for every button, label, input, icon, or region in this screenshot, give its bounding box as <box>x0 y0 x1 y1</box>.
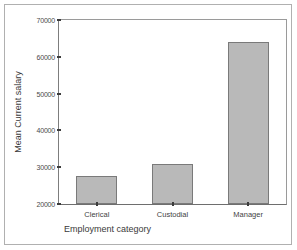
y-axis-tick-label: 60000 <box>37 53 55 60</box>
bar <box>228 42 269 204</box>
bar-chart-figure: Mean Current salary 20000300004000050000… <box>0 0 297 250</box>
y-axis-tick-mark <box>57 19 61 21</box>
x-axis-tick-label: Custodial <box>157 210 188 219</box>
y-axis-tick-mark <box>57 203 61 205</box>
x-axis-tick-label: Manager <box>233 210 263 219</box>
y-axis-tick-label: 30000 <box>37 164 55 171</box>
x-axis-tick-mark <box>172 202 174 206</box>
y-axis-title-label: Mean Current salary <box>13 71 23 153</box>
y-axis-tick-mark <box>57 166 61 168</box>
y-axis-tick-mark <box>57 56 61 58</box>
x-axis-title: Employment category <box>58 224 287 234</box>
y-axis-tick-label: 70000 <box>37 17 55 24</box>
y-axis-tick-label: 50000 <box>37 90 55 97</box>
y-axis-tick-label: 20000 <box>37 201 55 208</box>
x-axis-tick-mark <box>96 202 98 206</box>
x-axis-tick-mark <box>247 202 249 206</box>
x-axis-title-label: Employment category <box>64 224 151 234</box>
bar <box>152 164 193 204</box>
plot-area: 200003000040000500006000070000ClericalCu… <box>58 19 287 205</box>
y-axis-tick-mark <box>57 93 61 95</box>
y-axis-title: Mean Current salary <box>11 19 25 205</box>
y-axis-tick-label: 40000 <box>37 127 55 134</box>
bar <box>76 176 117 204</box>
y-axis-tick-mark <box>57 129 61 131</box>
x-axis-tick-label: Clerical <box>84 210 109 219</box>
